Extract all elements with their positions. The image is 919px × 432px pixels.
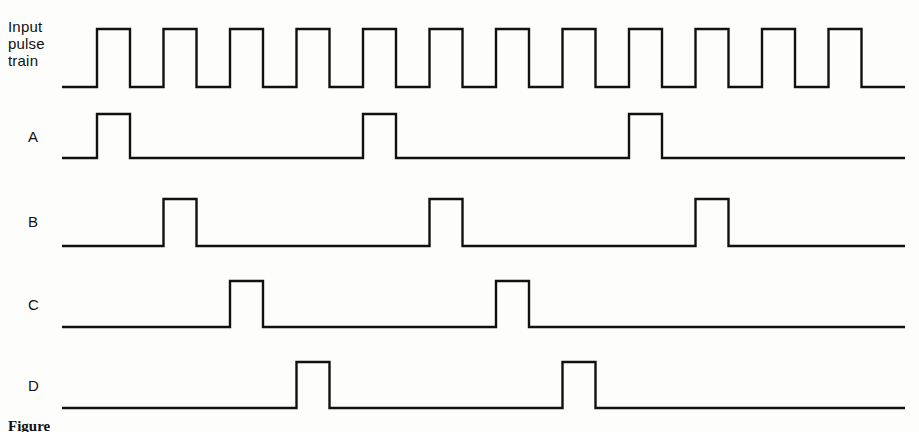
row-label-a: A — [28, 128, 38, 145]
row-label-input-pulse-train: Input pulse train — [8, 18, 82, 69]
waveform-input — [62, 29, 905, 87]
row-label-c: C — [28, 296, 39, 313]
waveform-c — [62, 281, 905, 327]
timing-diagram-figure: Input pulse train A B C D Figure — [0, 0, 919, 432]
waveform-d — [62, 362, 905, 408]
row-label-d: D — [28, 377, 39, 394]
figure-caption: Figure — [8, 418, 50, 432]
waveform-traces — [62, 29, 905, 408]
waveform-b — [62, 199, 905, 246]
waveform-a — [62, 114, 905, 158]
waveform-canvas — [0, 0, 919, 432]
row-label-b: B — [28, 213, 38, 230]
